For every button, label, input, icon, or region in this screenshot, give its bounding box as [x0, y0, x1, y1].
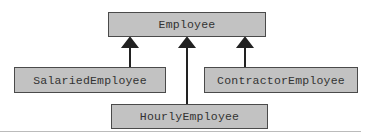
- contractor-arrowhead: [238, 38, 252, 47]
- hourly-arrowhead: [180, 38, 194, 47]
- salaried-arrowhead: [123, 38, 137, 47]
- class-salaried-label: SalariedEmployee: [33, 74, 147, 87]
- class-contractor-label: ContractorEmployee: [217, 74, 345, 87]
- class-employee-label: Employee: [159, 18, 216, 31]
- class-salaried-employee: SalariedEmployee: [14, 67, 166, 93]
- class-hourly-label: HourlyEmployee: [140, 110, 239, 123]
- class-hourly-employee: HourlyEmployee: [111, 104, 268, 129]
- class-employee: Employee: [108, 12, 266, 37]
- class-contractor-employee: ContractorEmployee: [204, 67, 358, 93]
